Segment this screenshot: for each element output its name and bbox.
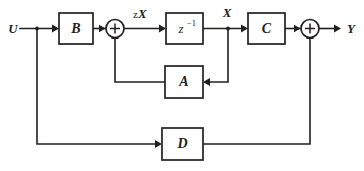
arrowhead-b-input — [52, 25, 59, 33]
wire-a-to-sum-state — [115, 39, 165, 82]
block-c-label: C — [262, 21, 272, 36]
signal-label-output: Y — [347, 21, 356, 36]
block-d-label: D — [176, 136, 187, 151]
block-c[interactable]: C — [248, 13, 285, 44]
signal-label-state-next: zX — [133, 6, 147, 21]
block-a[interactable]: A — [165, 66, 203, 98]
block-delay-label: z — [177, 21, 183, 36]
state-space-block-diagram: B z −1 C A D — [0, 0, 364, 171]
block-b[interactable]: B — [59, 13, 93, 44]
wire-state-to-a — [210, 29, 228, 83]
arrowhead-delay-input — [159, 25, 166, 33]
wire-input-to-d — [37, 29, 155, 145]
signal-label-state: X — [222, 5, 232, 20]
block-d[interactable]: D — [162, 128, 203, 160]
block-diagram-canvas: B z −1 C A D — [0, 0, 364, 171]
summing-junction-output[interactable] — [301, 20, 319, 38]
arrowhead-c-input — [241, 25, 248, 33]
block-unit-delay[interactable]: z −1 — [166, 13, 203, 44]
signal-label-input: U — [8, 21, 18, 36]
arrowhead-sum-output-left — [294, 25, 301, 32]
signal-label-state-next-main: X — [137, 6, 147, 21]
wire-d-to-sum-output — [203, 39, 310, 144]
arrowhead-output — [334, 25, 341, 33]
arrowhead-sum-state-left — [99, 25, 106, 32]
arrowhead-a-input — [203, 78, 210, 86]
block-b-label: B — [70, 21, 80, 36]
summing-junction-state[interactable] — [106, 20, 124, 38]
arrowhead-d-input — [155, 140, 162, 148]
block-delay-exponent: −1 — [187, 18, 196, 28]
block-delay-rect — [166, 13, 203, 44]
block-a-label: A — [178, 74, 188, 89]
